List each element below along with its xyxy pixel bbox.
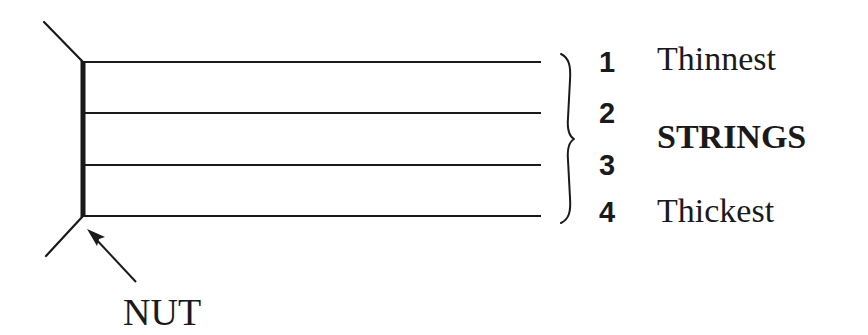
arrowhead-icon [87,229,105,246]
curly-brace [561,54,574,223]
nut-label: NUT [123,291,201,333]
thinnest-label: Thinnest [657,40,777,77]
string-number-1: 1 [599,46,615,78]
lower-pegbox-line [46,216,83,256]
nut-arrow [94,237,136,282]
thickest-label: Thickest [657,192,775,229]
string-number-3: 3 [599,149,615,181]
strings-label: STRINGS [657,118,806,155]
string-number-2: 2 [599,97,615,129]
string-number-4: 4 [599,196,615,228]
strings-group [83,62,541,216]
violin-strings-diagram: 1 2 3 4 Thinnest STRINGS Thickest NUT [0,0,868,335]
upper-pegbox-line [44,22,83,62]
